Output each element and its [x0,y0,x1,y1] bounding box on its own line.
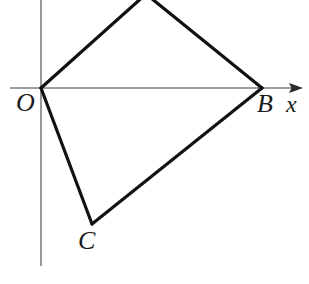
edge-OA [41,0,146,88]
vertex-label-o: O [16,90,35,116]
geometry-figure: O B C x [0,0,309,284]
vertex-label-b: B [257,91,273,117]
x-axis-label: x [286,92,297,116]
edge-CO [41,88,92,224]
edge-BC [92,88,262,224]
figure-canvas [0,0,309,284]
vertex-label-c: C [78,228,95,254]
edge-AB [146,0,262,88]
